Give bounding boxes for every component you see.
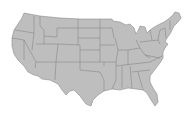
us-states-map — [0, 0, 192, 118]
